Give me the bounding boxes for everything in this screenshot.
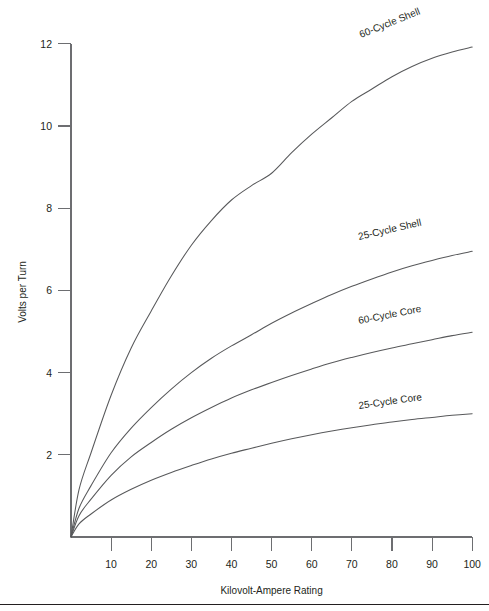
x-tick-label: 70	[346, 558, 358, 570]
x-tick-label: 50	[266, 558, 278, 570]
x-axis-title: Kilovolt-Ampere Rating	[220, 585, 322, 596]
x-tick-label: 10	[105, 558, 117, 570]
footer-divider	[0, 604, 489, 605]
y-tick-label: 6	[46, 284, 52, 296]
y-tick-label: 4	[46, 367, 52, 379]
x-tick-label: 90	[426, 558, 438, 570]
x-tick-label: 20	[145, 558, 157, 570]
y-tick-label: 12	[40, 38, 52, 50]
x-tick-label: 30	[186, 558, 198, 570]
x-tick-label: 80	[386, 558, 398, 570]
y-tick-label: 10	[40, 120, 52, 132]
x-tick-label: 40	[226, 558, 238, 570]
x-tick-label: 60	[306, 558, 318, 570]
figure-container: 24681012 102030405060708090100 60-Cycle …	[0, 0, 489, 611]
y-tick-label: 8	[46, 202, 52, 214]
y-axis-title: Volts per Turn	[17, 261, 28, 323]
volts-per-turn-chart: 24681012 102030405060708090100 60-Cycle …	[0, 0, 489, 611]
y-tick-label: 2	[46, 449, 52, 461]
x-tick-label: 100	[463, 558, 481, 570]
